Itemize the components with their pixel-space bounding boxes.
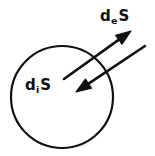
diagram-svg (0, 0, 155, 156)
external-label-base: d (100, 7, 111, 25)
figure-canvas: deS diS (0, 0, 155, 156)
internal-label-base: d (25, 76, 36, 94)
external-entropy-label: deS (100, 9, 130, 24)
internal-entropy-label: diS (25, 78, 51, 93)
external-label-symbol: S (119, 7, 130, 25)
external-label-subscript: e (111, 15, 117, 26)
system-boundary-circle (11, 46, 113, 148)
internal-label-symbol: S (40, 76, 51, 94)
internal-label-subscript: i (36, 84, 39, 95)
external-entropy-flow-arrow (64, 31, 131, 79)
